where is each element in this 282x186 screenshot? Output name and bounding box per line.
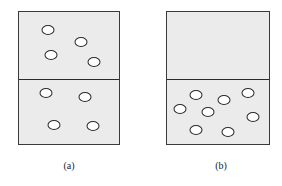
caption-a: (a) [63,160,74,171]
particle-upper [88,57,101,67]
particle-upper [45,50,58,60]
particle-lower [242,88,255,98]
particle-lower [247,112,260,122]
particle-lower [174,104,187,114]
particle-lower [222,127,235,137]
caption-b: (b) [215,160,227,171]
particle-lower [218,95,231,105]
particle-upper [75,37,88,47]
particle-lower [87,121,100,131]
partition-line [19,79,119,80]
container-panel-b [166,11,270,145]
partition-line [167,79,269,80]
particle-lower [190,125,203,135]
particle-lower [190,90,203,100]
particle-lower [48,120,61,130]
particle-upper [42,25,55,35]
particle-lower [40,88,53,98]
particle-lower [79,92,92,102]
particle-lower [202,107,215,117]
container-panel-a [18,11,120,145]
